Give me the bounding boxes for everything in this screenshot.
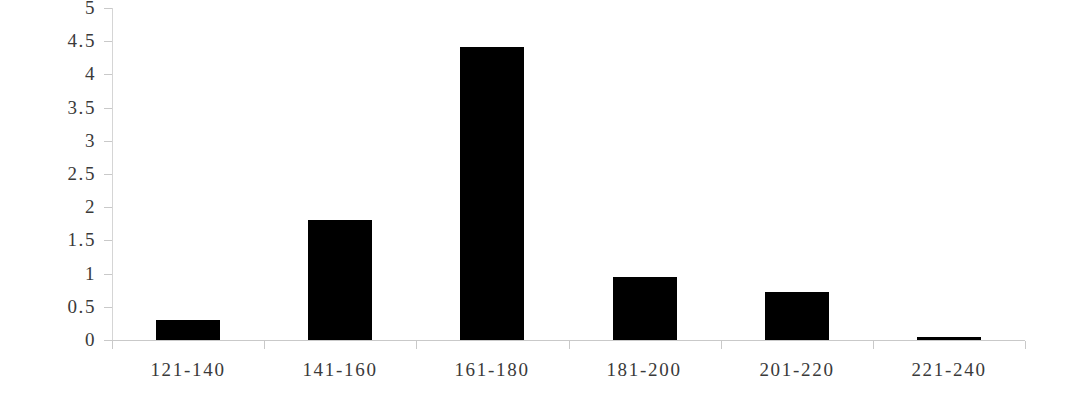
y-axis-tick-label: 1 <box>0 264 96 283</box>
x-axis-tick <box>264 341 265 349</box>
y-axis-tick-label: 0.5 <box>0 297 96 316</box>
y-axis-tick <box>104 340 112 341</box>
y-axis-tick-label-text: 5 <box>0 0 96 17</box>
x-axis-category-label: 141-160 <box>264 358 416 382</box>
bar <box>613 277 677 340</box>
x-axis-tick <box>721 341 722 349</box>
y-axis-tick-label-text: 0.5 <box>0 297 96 316</box>
bar <box>917 337 981 340</box>
y-axis-tick <box>104 174 112 175</box>
y-axis-tick-label-text: 0 <box>0 330 96 349</box>
y-axis-tick-label-text: 4 <box>0 64 96 83</box>
y-axis-tick <box>104 74 112 75</box>
y-axis-tick <box>104 41 112 42</box>
bar <box>156 320 220 340</box>
y-axis-tick-label: 3.5 <box>0 98 96 117</box>
bar <box>460 47 524 340</box>
plot-area <box>112 8 1025 340</box>
y-axis-tick-label-text: 1.5 <box>0 230 96 249</box>
y-axis-tick-label: 2 <box>0 197 96 216</box>
y-axis-tick <box>104 8 112 9</box>
y-axis-tick <box>104 207 112 208</box>
bar-chart: 00.511.522.533.544.55 121-140141-160161-… <box>0 0 1083 411</box>
y-axis-tick <box>104 274 112 275</box>
bar <box>765 292 829 340</box>
y-axis-tick-label: 0 <box>0 330 96 349</box>
x-axis-tick <box>416 341 417 349</box>
y-axis-tick-label: 2.5 <box>0 164 96 183</box>
y-axis-tick <box>104 307 112 308</box>
y-axis-tick <box>104 240 112 241</box>
x-axis-category-label: 121-140 <box>112 358 264 382</box>
bar <box>308 220 372 340</box>
x-axis-category-label: 181-200 <box>568 358 720 382</box>
x-axis-category-label: 161-180 <box>416 358 568 382</box>
x-axis-tick <box>1025 341 1026 349</box>
x-axis-tick <box>112 341 113 349</box>
y-axis-tick-label: 4.5 <box>0 31 96 50</box>
y-axis-tick <box>104 141 112 142</box>
y-axis-tick-label-text: 2 <box>0 197 96 216</box>
y-axis-tick <box>104 108 112 109</box>
y-axis-tick-label-text: 4.5 <box>0 31 96 50</box>
y-axis-tick-label: 4 <box>0 64 96 83</box>
y-axis-tick-label: 1.5 <box>0 230 96 249</box>
x-axis-tick <box>873 341 874 349</box>
x-axis-category-label: 201-220 <box>721 358 873 382</box>
y-axis-tick-label: 5 <box>0 0 96 17</box>
y-axis-tick-label-text: 3 <box>0 131 96 150</box>
x-axis-category-label: 221-240 <box>873 358 1025 382</box>
y-axis-tick-label-text: 1 <box>0 264 96 283</box>
y-axis-tick-label-text: 3.5 <box>0 98 96 117</box>
y-axis-tick-label-text: 2.5 <box>0 164 96 183</box>
y-axis-tick-label: 3 <box>0 131 96 150</box>
x-axis-tick <box>569 341 570 349</box>
